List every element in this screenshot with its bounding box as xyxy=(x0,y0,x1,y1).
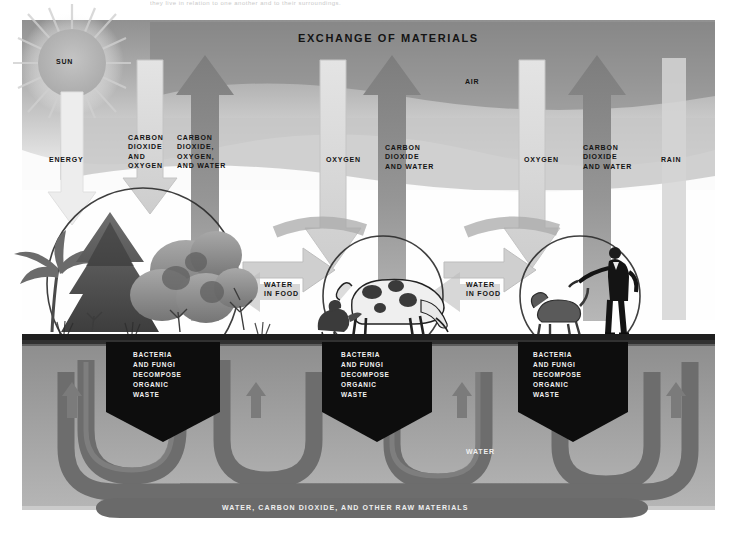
label-water-ground: WATER xyxy=(466,447,495,456)
energy-label: ENERGY xyxy=(49,155,83,164)
label-oxygen-1: OXYGEN xyxy=(326,155,361,164)
label-rain: RAIN xyxy=(661,155,681,164)
label-bottom-band: WATER, CARBON DIOXIDE, AND OTHER RAW MAT… xyxy=(222,503,468,512)
label-co2-and-oxygen: CARBON DIOXIDE AND OXYGEN xyxy=(128,133,164,171)
label-co2-and-water-1: CARBON DIOXIDE AND WATER xyxy=(385,143,434,171)
label-oxygen-2: OXYGEN xyxy=(524,155,559,164)
sun-label: SUN xyxy=(56,57,73,66)
decomposer-box-text-humans: BACTERIA AND FUNGI DECOMPOSE ORGANIC WAS… xyxy=(533,350,582,400)
decomposer-box-text-plants: BACTERIA AND FUNGI DECOMPOSE ORGANIC WAS… xyxy=(133,350,182,400)
label-co2-oxygen-water: CARBON DIOXIDE, OXYGEN, AND WATER xyxy=(177,133,226,171)
decomposer-box-text-animals: BACTERIA AND FUNGI DECOMPOSE ORGANIC WAS… xyxy=(341,350,390,400)
page-title: EXCHANGE OF MATERIALS xyxy=(298,31,479,46)
label-water-in-food-2: WATER IN FOOD xyxy=(466,280,501,299)
down-arrow-rain xyxy=(662,58,686,320)
label-water-in-food-1: WATER IN FOOD xyxy=(264,280,299,299)
figure-canvas: they live in relation to one another and… xyxy=(0,0,737,541)
label-co2-and-water-2: CARBON DIOXIDE AND WATER xyxy=(583,143,632,171)
exchange-of-materials-illustration xyxy=(0,0,737,541)
air-label: AIR xyxy=(465,77,479,86)
